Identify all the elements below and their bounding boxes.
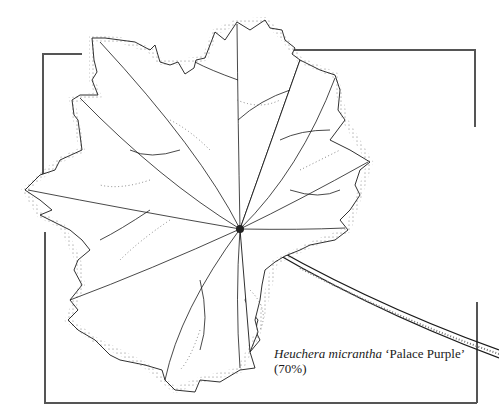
caption-line-1: Heuchera micrantha ‘Palace Purple’ bbox=[274, 346, 465, 361]
cultivar-name: ‘Palace Purple’ bbox=[385, 346, 465, 361]
scale-label: (70%) bbox=[274, 361, 465, 376]
leaf-center bbox=[236, 225, 244, 233]
botanical-plate: Heuchera micrantha ‘Palace Purple’ (70%) bbox=[0, 0, 499, 417]
species-name: Heuchera micrantha bbox=[274, 346, 382, 361]
figure-caption: Heuchera micrantha ‘Palace Purple’ (70%) bbox=[274, 346, 465, 376]
